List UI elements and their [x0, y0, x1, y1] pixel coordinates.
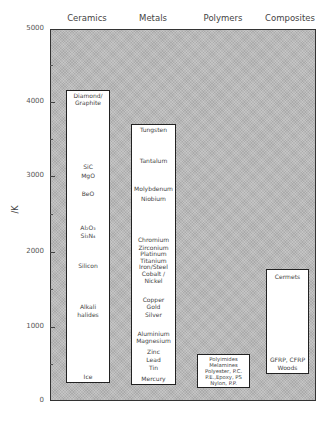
label-beo: BeO — [67, 190, 109, 197]
tick-mark — [50, 252, 55, 253]
label-gold: Gold — [132, 303, 175, 310]
label-sic: SiC — [67, 163, 109, 170]
label-halides: halides — [67, 311, 109, 318]
label-cermets: Cermets — [267, 273, 308, 280]
label-alkali: Alkali — [67, 303, 109, 310]
label-copper: Copper — [132, 296, 175, 303]
tick-mark — [50, 102, 55, 103]
label-ice: Ice — [67, 373, 109, 380]
ytick-3000: 3000 — [14, 171, 44, 179]
label-magnesium: Magnesium — [132, 337, 175, 344]
label-cobalt: Cobalt / — [132, 270, 175, 277]
label-tantalum: Tantalum — [132, 157, 175, 164]
ytick-4000: 4000 — [14, 97, 44, 105]
bar-ceramics: Diamond/ Graphite SiC MgO BeO Al₂O₃ Si₃N… — [66, 90, 110, 383]
header-composites: Composites — [255, 13, 325, 23]
label-mgo: MgO — [67, 172, 109, 179]
ytick-0: 0 — [14, 396, 44, 404]
label-aluminium: Aluminium — [132, 330, 175, 337]
bar-composites: Cermets GFRP, CFRP Woods — [266, 269, 309, 374]
label-graphite: Graphite — [67, 99, 109, 106]
label-diamond: Diamond/ — [67, 92, 109, 99]
label-molybdenum: Molybdenum — [132, 185, 175, 192]
minor-tick — [50, 65, 53, 66]
tick-mark — [50, 176, 55, 177]
minor-tick — [50, 139, 53, 140]
minor-tick — [50, 364, 53, 365]
label-silicon: Silicon — [67, 262, 109, 269]
label-al2o3: Al₂O₃ — [67, 224, 109, 231]
label-silver: Silver — [132, 311, 175, 318]
label-lead: Lead — [132, 356, 175, 363]
minor-tick — [50, 289, 53, 290]
label-gfrp-cfrp: GFRP, CFRP — [267, 356, 308, 363]
label-iron-steel: Iron/Steel — [132, 263, 175, 270]
ytick-1000: 1000 — [14, 322, 44, 330]
label-tin: Tin — [132, 364, 175, 371]
bar-polymers: Polyimides Melamines Polyester, P.C. P.E… — [197, 354, 250, 388]
label-nylon: Nylon, P.P. — [198, 380, 249, 386]
label-chromium: Chromium — [132, 236, 175, 243]
ytick-2000: 2000 — [14, 247, 44, 255]
label-niobium: Niobium — [132, 195, 175, 202]
label-tungsten: Tungsten — [132, 126, 175, 133]
header-ceramics: Ceramics — [52, 13, 122, 23]
label-zinc: Zinc — [132, 348, 175, 355]
tick-mark — [50, 327, 55, 328]
label-nickel: Nickel — [132, 277, 175, 284]
ytick-5000: 5000 — [14, 24, 44, 32]
label-mercury: Mercury — [132, 375, 175, 382]
bar-metals: Tungsten Tantalum Molybdenum Niobium Chr… — [131, 124, 176, 385]
header-metals: Metals — [118, 13, 188, 23]
header-polymers: Polymers — [188, 13, 258, 23]
label-si3n4: Si₃N₄ — [67, 232, 109, 239]
minor-tick — [50, 214, 53, 215]
label-platinum: Platinum — [132, 250, 175, 257]
label-woods: Woods — [267, 364, 308, 371]
y-axis-label: /K — [11, 206, 20, 214]
